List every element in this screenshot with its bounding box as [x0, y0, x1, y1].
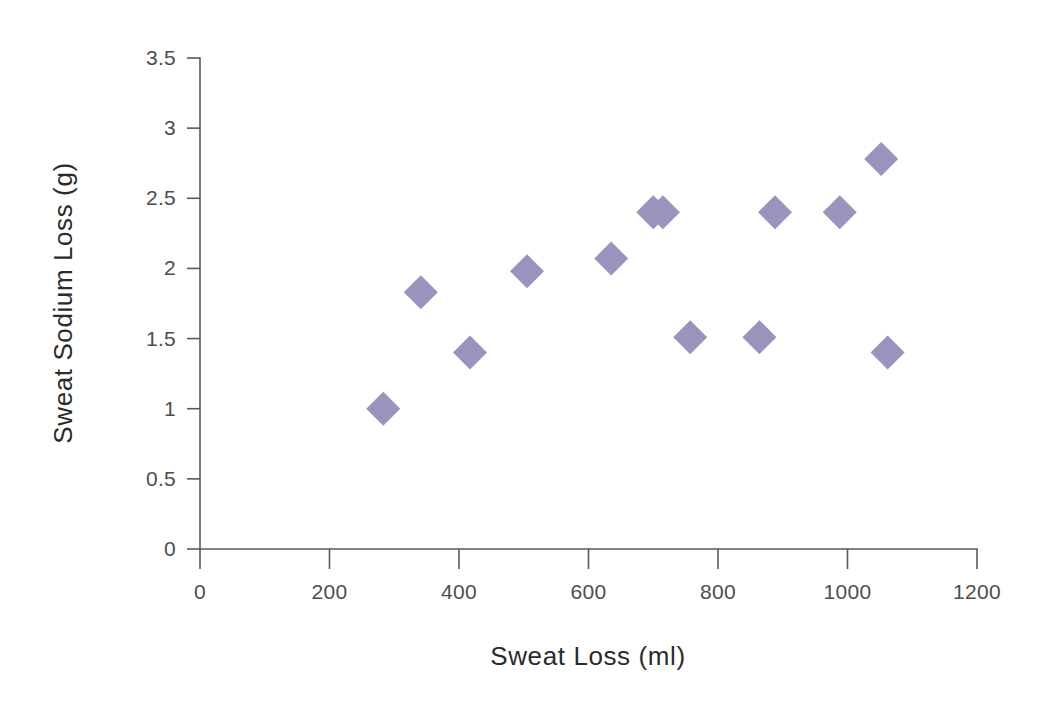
- y-axis-title: Sweat Sodium Loss (g): [48, 162, 78, 443]
- x-tick-label: 600: [571, 580, 607, 603]
- y-tick-label: 2: [164, 256, 176, 279]
- data-point: [871, 336, 905, 370]
- data-point: [510, 254, 544, 288]
- y-axis-tick-labels: 00.511.522.533.5: [146, 46, 176, 560]
- data-point: [864, 142, 898, 176]
- y-axis-ticks: [187, 58, 200, 549]
- data-point: [453, 336, 487, 370]
- x-tick-label: 0: [194, 580, 206, 603]
- y-tick-label: 1: [164, 397, 176, 420]
- data-point: [404, 275, 438, 309]
- scatter-plot: 00.511.522.533.5 020040060080010001200 S…: [0, 0, 1060, 714]
- y-tick-label: 3.5: [146, 46, 176, 69]
- x-axis-tick-labels: 020040060080010001200: [194, 580, 1001, 603]
- data-point: [742, 320, 776, 354]
- x-axis-title: Sweat Loss (ml): [490, 641, 685, 671]
- data-point: [594, 242, 628, 276]
- x-tick-label: 1000: [824, 580, 872, 603]
- y-tick-label: 3: [164, 116, 176, 139]
- x-tick-label: 1200: [953, 580, 1001, 603]
- x-tick-label: 800: [700, 580, 736, 603]
- data-point: [823, 195, 857, 229]
- x-tick-label: 200: [312, 580, 348, 603]
- data-point-group: [366, 142, 904, 426]
- y-tick-label: 2.5: [146, 186, 176, 209]
- data-point: [758, 195, 792, 229]
- x-axis-ticks: [200, 549, 977, 569]
- y-tick-label: 1.5: [146, 327, 176, 350]
- data-point: [366, 392, 400, 426]
- x-tick-label: 400: [441, 580, 477, 603]
- y-tick-label: 0.5: [146, 467, 176, 490]
- chart-page: 00.511.522.533.5 020040060080010001200 S…: [0, 0, 1060, 714]
- data-point: [673, 320, 707, 354]
- y-tick-label: 0: [164, 537, 176, 560]
